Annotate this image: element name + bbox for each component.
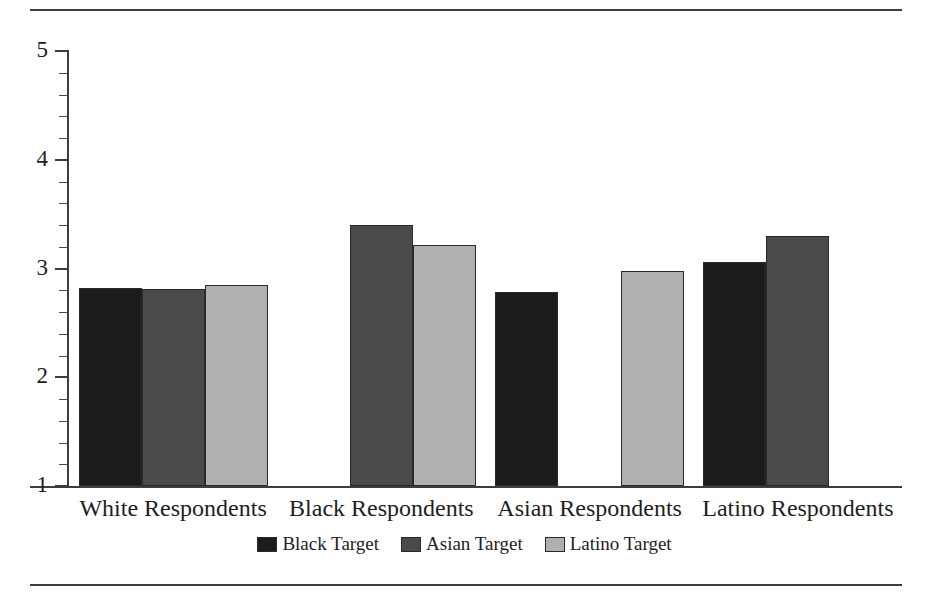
legend-swatch-icon: [401, 537, 421, 552]
legend-label: Black Target: [282, 534, 379, 554]
bar: [79, 288, 142, 486]
bar: [350, 225, 413, 486]
legend-item: Black Target: [257, 534, 379, 554]
bar: [703, 262, 766, 486]
bar: [495, 292, 558, 486]
legend-swatch-icon: [545, 537, 565, 552]
bar: [413, 245, 476, 486]
x-axis-group-label: White Respondents: [69, 493, 277, 523]
figure-container: 12345 White RespondentsBlack Respondents…: [0, 0, 929, 602]
legend-label: Latino Target: [570, 534, 672, 554]
chart-legend: Black TargetAsian TargetLatino Target: [0, 534, 929, 554]
x-axis-group-label: Latino Respondents: [694, 493, 902, 523]
legend-item: Asian Target: [401, 534, 523, 554]
bar: [621, 271, 684, 486]
bar: [766, 236, 829, 486]
bar: [205, 285, 268, 486]
x-axis-group-label: Asian Respondents: [486, 493, 694, 523]
legend-swatch-icon: [257, 537, 277, 552]
x-axis-group-label: Black Respondents: [277, 493, 485, 523]
legend-label: Asian Target: [426, 534, 523, 554]
bar: [142, 289, 205, 486]
legend-item: Latino Target: [545, 534, 672, 554]
